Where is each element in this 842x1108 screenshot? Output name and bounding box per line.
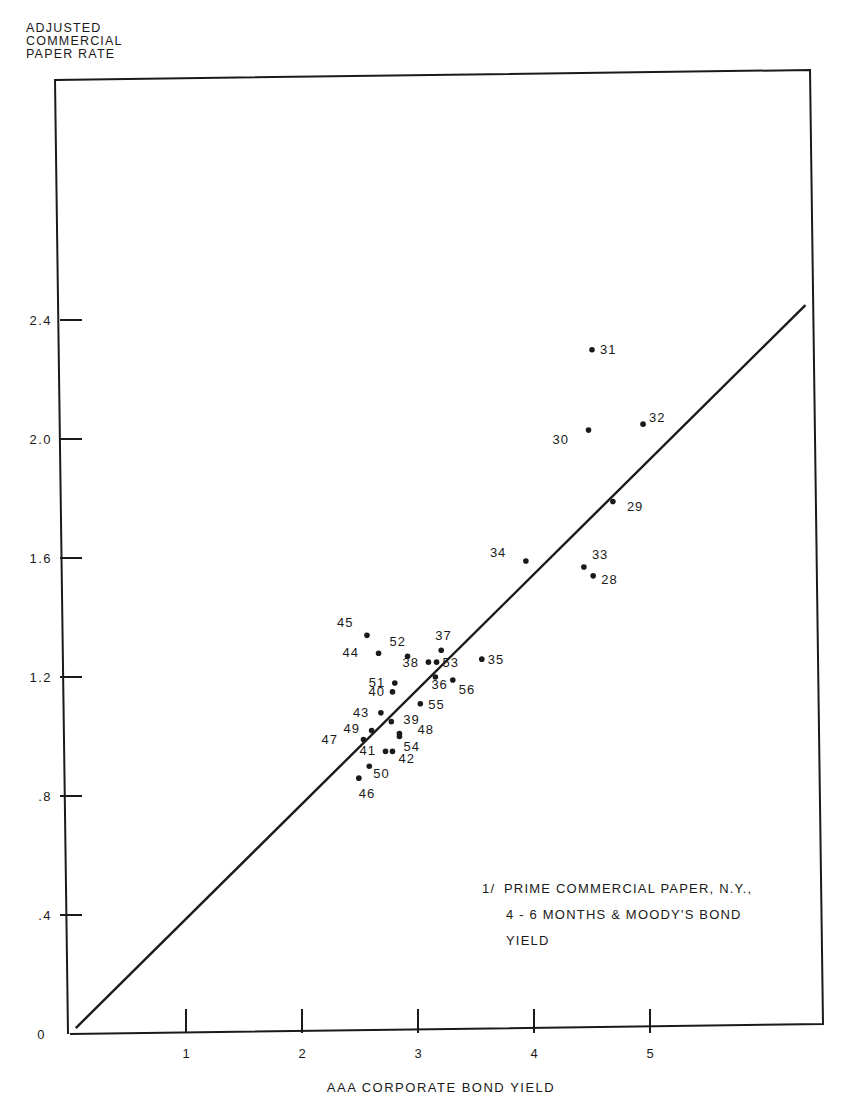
y-tick-label: 0 bbox=[37, 1027, 46, 1042]
point-label: 37 bbox=[435, 628, 451, 643]
data-point bbox=[376, 650, 382, 656]
point-label: 47 bbox=[321, 732, 337, 747]
data-point bbox=[479, 656, 485, 662]
point-label: 30 bbox=[553, 432, 569, 447]
data-point bbox=[405, 653, 411, 659]
y-tick-label: 2.4 bbox=[29, 313, 52, 328]
data-point bbox=[383, 749, 389, 755]
data-point bbox=[586, 427, 592, 433]
y-tick-label: 1.2 bbox=[29, 670, 52, 685]
x-axis-title: AAA CORPORATE BOND YIELD bbox=[0, 1080, 842, 1095]
point-label: 34 bbox=[490, 545, 506, 560]
point-label: 36 bbox=[431, 677, 447, 692]
footnote: 1/PRIME COMMERCIAL PAPER, N.Y., 4 - 6 MO… bbox=[482, 876, 752, 954]
data-point bbox=[581, 564, 587, 570]
point-label: 33 bbox=[592, 547, 608, 562]
data-point bbox=[589, 347, 595, 353]
data-point bbox=[378, 710, 384, 716]
point-label: 56 bbox=[459, 682, 475, 697]
point-label: 52 bbox=[390, 634, 406, 649]
data-point bbox=[523, 558, 529, 564]
data-point bbox=[369, 728, 375, 734]
data-point bbox=[389, 719, 395, 725]
point-label: 44 bbox=[343, 645, 359, 660]
data-point bbox=[392, 680, 398, 686]
y-tick-label: 1.6 bbox=[29, 551, 52, 566]
data-point bbox=[361, 737, 367, 743]
data-point bbox=[390, 749, 396, 755]
data-point bbox=[434, 659, 440, 665]
data-point bbox=[356, 775, 362, 781]
y-tick-label: .4 bbox=[38, 908, 52, 923]
y-tick-label: .8 bbox=[38, 789, 52, 804]
point-label: 35 bbox=[488, 652, 504, 667]
data-point bbox=[610, 499, 616, 505]
point-label: 43 bbox=[353, 705, 369, 720]
footnote-line-3: YIELD bbox=[482, 928, 752, 954]
data-point bbox=[418, 701, 424, 707]
point-label: 46 bbox=[359, 786, 375, 801]
x-tick-label: 2 bbox=[298, 1046, 305, 1061]
x-tick-label: 1 bbox=[182, 1046, 189, 1061]
point-label: 31 bbox=[600, 342, 616, 357]
data-point bbox=[366, 763, 372, 769]
data-point bbox=[426, 659, 432, 665]
data-point bbox=[450, 677, 456, 683]
point-label: 45 bbox=[337, 615, 353, 630]
point-label: 50 bbox=[373, 766, 389, 781]
data-point bbox=[397, 734, 403, 740]
data-point bbox=[640, 421, 646, 427]
data-points: 2829303132333435363738394041424344454647… bbox=[321, 342, 665, 801]
point-label: 41 bbox=[360, 743, 376, 758]
point-label: 55 bbox=[428, 697, 444, 712]
point-label: 51 bbox=[369, 675, 385, 690]
footnote-line-2: 4 - 6 MONTHS & MOODY'S BOND bbox=[482, 902, 752, 928]
point-label: 28 bbox=[601, 572, 617, 587]
x-tick-label: 4 bbox=[530, 1046, 537, 1061]
data-point bbox=[390, 689, 396, 695]
point-label: 48 bbox=[417, 722, 433, 737]
point-label: 38 bbox=[402, 655, 418, 670]
point-label: 53 bbox=[443, 655, 459, 670]
footnote-mark: 1/ bbox=[482, 876, 504, 902]
point-label: 54 bbox=[403, 739, 419, 754]
x-tick-label: 5 bbox=[646, 1046, 653, 1061]
footnote-line-1: PRIME COMMERCIAL PAPER, N.Y., bbox=[504, 881, 752, 896]
x-tick-label: 3 bbox=[414, 1046, 421, 1061]
point-label: 49 bbox=[344, 721, 360, 736]
y-tick-label: 2.0 bbox=[29, 432, 52, 447]
data-point bbox=[438, 647, 444, 653]
point-label: 29 bbox=[627, 499, 643, 514]
point-label: 42 bbox=[398, 751, 414, 766]
data-point bbox=[364, 633, 370, 639]
point-label: 32 bbox=[649, 410, 665, 425]
data-point bbox=[590, 573, 596, 579]
